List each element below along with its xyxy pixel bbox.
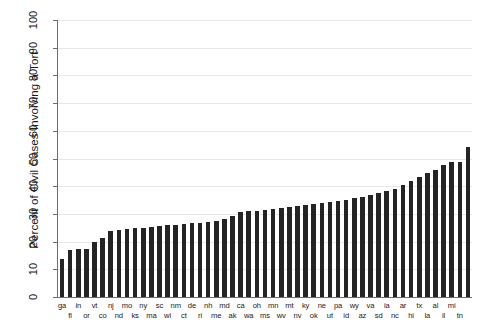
x-axis-label: nj — [103, 301, 119, 310]
x-axis-label: ks — [127, 311, 143, 320]
y-tick-label: 90 — [27, 33, 39, 63]
bar — [295, 206, 300, 297]
x-axis-label: va — [363, 301, 379, 310]
bar — [246, 211, 251, 297]
y-tick-mark — [53, 75, 58, 76]
x-axis-label: ms — [257, 311, 273, 320]
x-axis-label: ar — [395, 301, 411, 310]
y-tick-mark — [53, 269, 58, 270]
gridline — [58, 20, 472, 21]
y-tick-mark — [53, 214, 58, 215]
plot-area: 0102030405060708090100 — [58, 20, 472, 297]
bar — [449, 162, 454, 297]
y-tick-label: 10 — [27, 254, 39, 284]
bar — [328, 202, 333, 297]
x-axis-label: ga — [54, 301, 70, 310]
x-axis-label: wy — [346, 301, 362, 310]
bar — [279, 208, 284, 297]
y-tick-mark — [53, 242, 58, 243]
x-axis-label: mt — [281, 301, 297, 310]
x-axis-label: sd — [371, 311, 387, 320]
gridline — [58, 131, 472, 132]
y-tick-mark — [53, 186, 58, 187]
x-axis-label: ri — [192, 311, 208, 320]
bar — [417, 177, 422, 297]
bar — [263, 210, 268, 297]
bar — [344, 200, 349, 297]
bar — [466, 147, 471, 297]
bar — [100, 238, 105, 297]
gridline — [58, 75, 472, 76]
bar — [230, 216, 235, 297]
bar — [238, 212, 243, 297]
x-axis-label: tx — [411, 301, 427, 310]
y-tick-label: 100 — [27, 5, 39, 35]
bar — [352, 198, 357, 297]
bar — [133, 228, 138, 297]
x-axis-label: mn — [265, 301, 281, 310]
x-axis-label: hi — [403, 311, 419, 320]
bar-chart: Percent of Civil Cases Involving a Tort … — [0, 0, 478, 334]
x-axis-label: ct — [176, 311, 192, 320]
bar — [425, 173, 430, 297]
bar — [255, 211, 260, 297]
x-axis-label: vt — [87, 301, 103, 310]
x-axis-label: ny — [135, 301, 151, 310]
gridline — [58, 159, 472, 160]
bar — [441, 165, 446, 297]
x-axis-label: nm — [168, 301, 184, 310]
bar — [222, 219, 227, 297]
bar — [271, 209, 276, 297]
bar — [287, 207, 292, 297]
x-axis-label: nd — [111, 311, 127, 320]
x-axis-label: nh — [200, 301, 216, 310]
x-axis-label: wv — [273, 311, 289, 320]
bar — [384, 191, 389, 297]
bar — [214, 221, 219, 297]
gridline — [58, 103, 472, 104]
bar — [76, 249, 81, 297]
y-tick-label: 80 — [27, 60, 39, 90]
bar — [108, 231, 113, 297]
x-axis-label: la — [419, 311, 435, 320]
x-axis-label: ok — [306, 311, 322, 320]
y-tick-label: 50 — [27, 144, 39, 174]
bar — [149, 227, 154, 297]
x-axis-label: ia — [379, 301, 395, 310]
bar — [458, 162, 463, 297]
bar — [190, 223, 195, 297]
x-axis-label: fl — [62, 311, 78, 320]
x-axis-label: de — [184, 301, 200, 310]
y-tick-label: 0 — [27, 282, 39, 312]
bar — [206, 222, 211, 297]
x-axis-label: wa — [241, 311, 257, 320]
x-axis-label: ne — [314, 301, 330, 310]
bar — [401, 185, 406, 297]
x-axis-label: ky — [298, 301, 314, 310]
y-tick-mark — [53, 20, 58, 21]
x-axis-label: or — [78, 311, 94, 320]
x-axis-label: al — [427, 301, 443, 310]
bar — [376, 193, 381, 297]
bar — [84, 249, 89, 297]
bar — [157, 226, 162, 297]
y-tick-label: 40 — [27, 171, 39, 201]
x-axis-label: mi — [444, 301, 460, 310]
y-tick-label: 30 — [27, 199, 39, 229]
x-axis-label: ut — [322, 311, 338, 320]
x-axis-label: in — [70, 301, 86, 310]
bar — [336, 201, 341, 297]
y-tick-mark — [53, 159, 58, 160]
y-tick-mark — [53, 131, 58, 132]
gridline — [58, 48, 472, 49]
bar — [68, 250, 73, 297]
x-axis-label: wi — [160, 311, 176, 320]
x-axis-label: ma — [143, 311, 159, 320]
x-axis-line — [57, 297, 472, 298]
bar — [409, 181, 414, 297]
bar — [360, 197, 365, 297]
x-axis-label: pa — [330, 301, 346, 310]
x-axis-label: id — [338, 311, 354, 320]
bar — [92, 242, 97, 297]
bar — [368, 195, 373, 297]
